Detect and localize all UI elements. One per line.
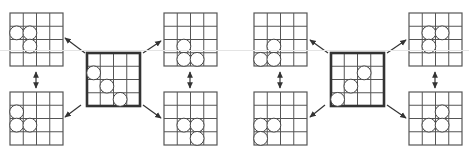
left-panel: [10, 13, 217, 145]
stone-icon: [87, 66, 101, 80]
background-rule: [0, 50, 469, 51]
stone-icon: [435, 26, 449, 40]
board-top-left: [10, 13, 63, 66]
center-board: [87, 53, 140, 106]
stone-icon: [254, 118, 268, 132]
center-board: [331, 53, 384, 106]
board-bottom-right: [409, 92, 462, 145]
stone-icon: [177, 118, 191, 132]
stone-icon: [267, 118, 281, 132]
arrow-icon: [65, 105, 81, 117]
stone-icon: [190, 118, 204, 132]
arrow-icon: [387, 40, 406, 53]
stone-icon: [435, 105, 449, 119]
arrow-icon: [310, 40, 328, 53]
stone-icon: [331, 92, 345, 106]
stone-icon: [254, 131, 268, 145]
arrow-icon: [143, 105, 161, 118]
stone-icon: [113, 92, 127, 106]
diagram-content: [10, 13, 462, 145]
stone-icon: [190, 52, 204, 66]
arrow-icon: [143, 41, 161, 53]
stone-icon: [435, 118, 449, 132]
arrow-icon: [387, 105, 406, 118]
stone-icon: [10, 118, 24, 132]
stone-icon: [23, 118, 37, 132]
board-bottom-left: [254, 92, 307, 145]
stone-icon: [422, 118, 436, 132]
diagram-canvas: [0, 0, 469, 152]
stone-icon: [190, 131, 204, 145]
stone-icon: [254, 52, 268, 66]
board-bottom-right: [164, 92, 217, 145]
board-top-left: [254, 13, 307, 66]
stone-icon: [10, 26, 24, 40]
stone-icon: [10, 105, 24, 119]
board-bottom-left: [10, 92, 63, 145]
board-top-right: [164, 13, 217, 66]
diagram-stage: [0, 0, 469, 152]
right-panel: [254, 13, 462, 145]
stone-icon: [100, 79, 114, 93]
stone-icon: [267, 52, 281, 66]
stone-icon: [344, 79, 358, 93]
stone-icon: [23, 26, 37, 40]
board-top-right: [409, 13, 462, 66]
stone-icon: [422, 26, 436, 40]
arrow-icon: [310, 105, 325, 117]
stone-icon: [177, 52, 191, 66]
stone-icon: [357, 66, 371, 80]
